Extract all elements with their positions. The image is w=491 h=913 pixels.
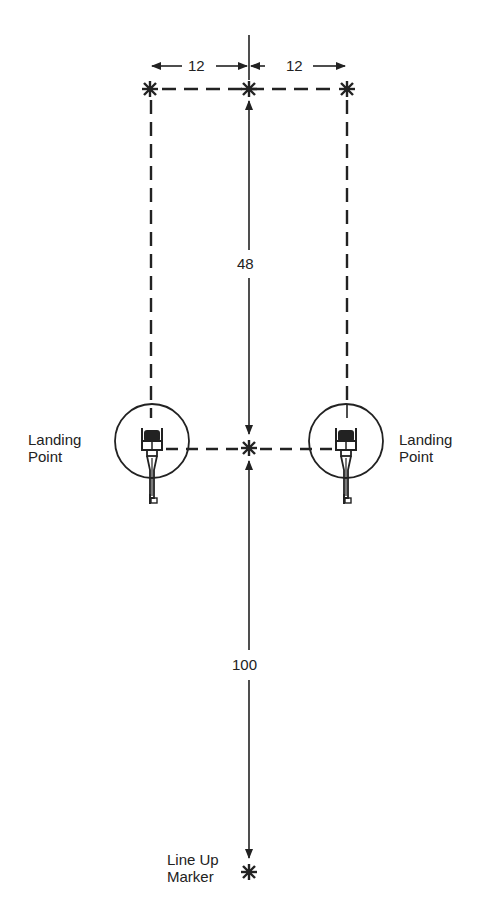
lineup-asterisk-icon [241, 864, 257, 880]
left-helicopter-icon [141, 428, 163, 504]
dim-48: 48 [235, 255, 256, 272]
top-right-asterisk-icon [339, 81, 355, 97]
left-landing-label: Landing Point [28, 431, 81, 465]
right-landing-label: Landing Point [399, 431, 452, 465]
dim-100: 100 [230, 656, 259, 673]
dim-left-12: 12 [186, 57, 207, 74]
lineup-marker-label: Line Up Marker [167, 851, 219, 885]
dim-right-12: 12 [284, 57, 305, 74]
center-asterisk-icon [241, 440, 257, 456]
top-left-asterisk-icon [142, 81, 158, 97]
top-center-asterisk-icon [241, 81, 257, 97]
right-helicopter-icon [335, 428, 357, 504]
